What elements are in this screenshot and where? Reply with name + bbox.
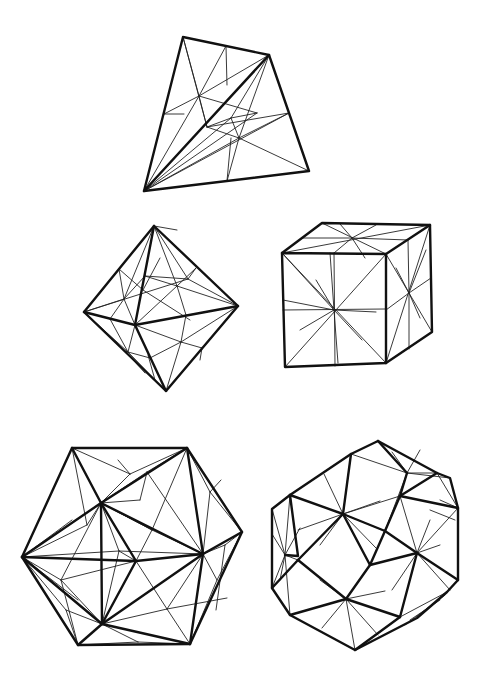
dodecahedron-edge [272, 441, 458, 650]
dodecahedron-subdivision-line [285, 495, 290, 555]
octahedron-subdivision-line [188, 268, 196, 279]
dodecahedron-edge [343, 473, 437, 531]
dodecahedron-edge [400, 496, 458, 508]
icosahedron-subdivision-line [147, 472, 203, 554]
dodecahedron-edge [298, 560, 370, 599]
cube-subdivision-line [330, 253, 334, 310]
tetrahedron-subdivision-line [144, 118, 231, 191]
icosahedron-edge [102, 561, 136, 624]
icosahedron-subdivision-line [130, 448, 187, 474]
cube-subdivision-line [334, 310, 362, 340]
cube-subdivision-line [340, 224, 352, 238]
cube-subdivision-line [300, 310, 334, 330]
icosahedron-subdivision-line [22, 551, 119, 557]
dodecahedron-edge [298, 514, 343, 560]
icosahedron-subdivision-line [66, 610, 102, 624]
dodecahedron-edge [290, 454, 351, 514]
dodecahedron-subdivision-line [346, 599, 355, 650]
octahedron-subdivision-line [177, 286, 186, 315]
dodecahedron-subdivision-line [272, 509, 285, 555]
polyhedra-diagram [0, 0, 489, 699]
cube-subdivision-line [316, 280, 334, 310]
cube-subdivision-line [409, 293, 420, 318]
cube-subdivision-line [352, 238, 408, 240]
icosahedron-subdivision-line [22, 525, 87, 557]
icosahedron-subdivision-line [167, 554, 203, 609]
octahedron-subdivision-line [124, 226, 154, 299]
dodecahedron-subdivision-line [285, 555, 290, 615]
tetrahedron-subdivision-line [226, 46, 227, 85]
dodecahedron-subdivision-line [343, 501, 380, 514]
tetrahedron-subdivision-line [199, 55, 269, 96]
octahedron-edge [84, 306, 238, 325]
octahedron-subdivision-line [150, 342, 181, 358]
tetrahedron-figure [144, 37, 309, 191]
dodecahedron-figure [272, 441, 458, 650]
octahedron-figure [84, 226, 238, 391]
icosahedron-subdivision-line [22, 557, 66, 610]
cube-subdivision-line [334, 310, 376, 312]
icosahedron-subdivision-line [102, 624, 138, 642]
icosahedron-edge [22, 448, 242, 645]
octahedron-subdivision-line [119, 269, 124, 299]
octahedron-subdivision-line [119, 269, 143, 290]
cube-subdivision-line [409, 250, 426, 293]
icosahedron-subdivision-line [72, 448, 130, 474]
tetrahedron-edge [144, 55, 269, 191]
icosahedron-subdivision-line [61, 503, 101, 580]
dodecahedron-edge [272, 560, 298, 588]
dodecahedron-subdivision-line [272, 555, 285, 588]
tetrahedron-subdivision-line [144, 113, 289, 191]
icosahedron-subdivision-line [203, 554, 217, 580]
icosahedron-subdivision-line [136, 530, 152, 561]
icosahedron-figure [22, 448, 242, 645]
icosahedron-subdivision-line [203, 492, 210, 554]
dodecahedron-edge [285, 495, 298, 556]
cube-subdivision-line [408, 240, 409, 293]
octahedron-subdivision-line [181, 342, 202, 348]
octahedron-subdivision-line [181, 315, 186, 342]
cube-figure [282, 223, 432, 367]
icosahedron-subdivision-line [118, 460, 130, 474]
icosahedron-subdivision-line [61, 561, 136, 580]
octahedron-subdivision-line [128, 325, 135, 352]
icosahedron-edge [22, 557, 136, 561]
dodecahedron-subdivision-line [272, 534, 285, 555]
octahedron-edge [84, 226, 238, 391]
cube-subdivision-line [334, 238, 352, 253]
dodecahedron-edge [355, 617, 400, 650]
octahedron-subdivision-line [145, 276, 188, 279]
dodecahedron-subdivision-line [417, 520, 430, 553]
octahedron-subdivision-line [124, 299, 135, 325]
dodecahedron-edge [290, 599, 346, 615]
dodecahedron-edge [385, 531, 417, 553]
icosahedron-subdivision-line [136, 561, 167, 609]
cube-subdivision-line [396, 268, 409, 293]
